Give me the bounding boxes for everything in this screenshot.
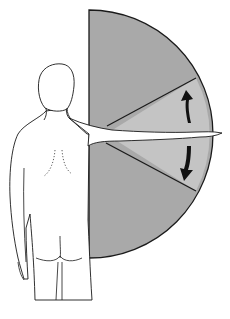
head — [38, 64, 74, 111]
shoulder-range-of-motion-diagram — [0, 0, 230, 319]
torso-outline — [10, 108, 92, 300]
